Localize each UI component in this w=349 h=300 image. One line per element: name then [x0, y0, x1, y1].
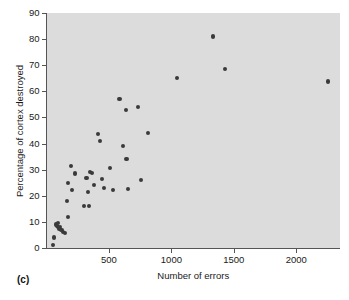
data-point	[51, 243, 55, 247]
panel-label: (c)	[17, 274, 29, 285]
data-point	[86, 190, 90, 194]
data-point	[108, 166, 112, 170]
y-axis-label: Percentage of cortex destroyed	[14, 64, 25, 196]
data-point	[146, 131, 150, 135]
data-point	[84, 176, 88, 180]
data-point	[87, 204, 91, 208]
data-points-layer	[0, 0, 349, 300]
data-point	[70, 188, 74, 192]
x-axis-label: Number of errors	[47, 270, 341, 281]
data-point	[100, 177, 104, 181]
data-point	[126, 187, 130, 191]
scatter-plot-figure: 0102030405060708090 500100015002000 Perc…	[0, 0, 349, 300]
data-point	[96, 132, 100, 136]
data-point	[66, 215, 70, 219]
data-point	[92, 183, 96, 187]
data-point	[111, 188, 115, 192]
data-point	[102, 186, 106, 190]
data-point	[52, 235, 56, 239]
data-point	[139, 178, 143, 182]
data-point	[211, 34, 215, 38]
data-point	[82, 204, 86, 208]
data-point	[124, 157, 128, 161]
data-point	[90, 171, 94, 175]
data-point	[98, 139, 102, 143]
data-point	[65, 199, 69, 203]
data-point	[124, 108, 128, 112]
data-point	[117, 97, 121, 101]
data-point	[66, 181, 70, 185]
data-point	[175, 76, 179, 80]
data-point	[121, 144, 125, 148]
data-point	[136, 105, 140, 109]
data-point	[63, 231, 67, 235]
data-point	[223, 67, 227, 71]
data-point	[73, 171, 77, 175]
data-point	[326, 79, 330, 83]
data-point	[69, 164, 73, 168]
